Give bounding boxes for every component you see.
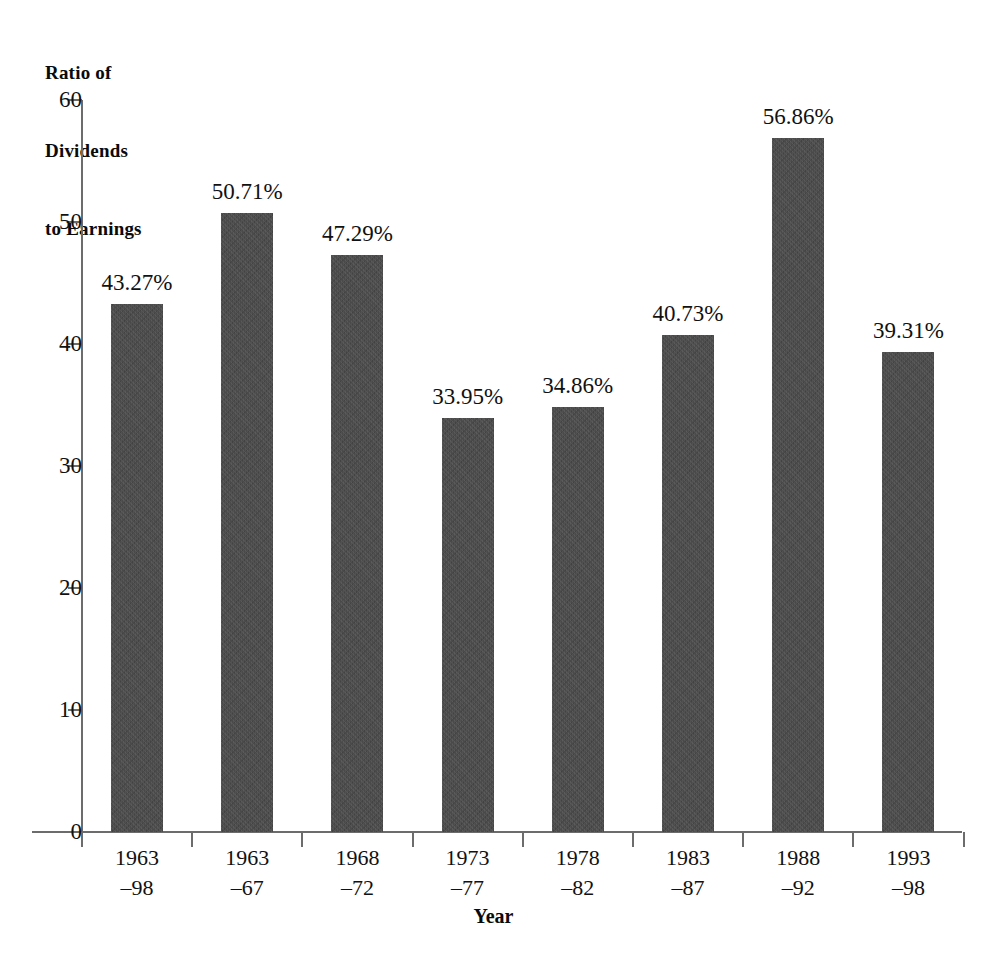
bar-value-label: 47.29%	[297, 222, 417, 245]
category-label-line-1: 1993	[848, 843, 968, 873]
bar	[772, 138, 824, 832]
bar-value-label: 56.86%	[738, 105, 858, 128]
category-label-line-1: 1968	[297, 843, 417, 873]
category-label-line-2: –87	[628, 873, 748, 903]
x-axis-category-label: 1983–87	[628, 843, 748, 903]
x-axis-category-label: 1978–82	[518, 843, 638, 903]
bar	[882, 352, 934, 832]
bar	[331, 255, 383, 832]
bar-value-label: 50.71%	[187, 180, 307, 203]
bar-value-label: 40.73%	[628, 302, 748, 325]
bar-value-label: 34.86%	[518, 374, 638, 397]
category-label-line-2: –77	[408, 873, 528, 903]
bar-value-label: 33.95%	[408, 385, 528, 408]
y-axis-tick-label: 10	[36, 698, 82, 721]
x-axis-category-label: 1963–67	[187, 843, 307, 903]
bar	[442, 418, 494, 832]
category-label-line-2: –82	[518, 873, 638, 903]
category-label-line-2: –98	[77, 873, 197, 903]
x-axis-title: Year	[0, 905, 987, 928]
category-label-line-1: 1983	[628, 843, 748, 873]
bar	[662, 335, 714, 832]
bar-value-label: 39.31%	[848, 319, 968, 342]
chart-page: Ratio of Dividends to Earnings 605040302…	[0, 0, 987, 958]
y-axis-tick-label: 0	[36, 820, 82, 843]
category-label-line-1: 1978	[518, 843, 638, 873]
category-label-line-2: –98	[848, 873, 968, 903]
bar	[111, 304, 163, 832]
y-axis-tick-label: 50	[36, 210, 82, 233]
category-label-line-1: 1988	[738, 843, 858, 873]
category-label-line-2: –92	[738, 873, 858, 903]
category-label-line-2: –67	[187, 873, 307, 903]
x-axis-category-label: 1968–72	[297, 843, 417, 903]
category-label-line-1: 1963	[187, 843, 307, 873]
bar-value-label: 43.27%	[77, 271, 197, 294]
x-axis-category-label: 1993–98	[848, 843, 968, 903]
bar	[552, 407, 604, 832]
plot-area: 6050403020100 43.27%50.71%47.29%33.95%34…	[0, 0, 987, 958]
x-axis-category-label: 1988–92	[738, 843, 858, 903]
y-axis-tick-label: 20	[36, 576, 82, 599]
y-axis-tick-label: 60	[36, 88, 82, 111]
y-axis-tick-label: 30	[36, 454, 82, 477]
category-label-line-1: 1973	[408, 843, 528, 873]
bar	[221, 213, 273, 832]
x-axis-category-label: 1963–98	[77, 843, 197, 903]
category-label-line-2: –72	[297, 873, 417, 903]
category-label-line-1: 1963	[77, 843, 197, 873]
x-axis-category-label: 1973–77	[408, 843, 528, 903]
y-axis-tick-label: 40	[36, 332, 82, 355]
